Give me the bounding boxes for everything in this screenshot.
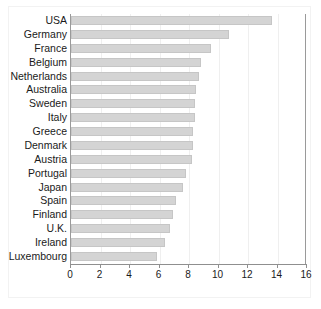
bar-row: Spain <box>0 194 321 208</box>
bar <box>71 113 195 122</box>
bar <box>71 99 195 108</box>
bar-row: USA <box>0 14 321 28</box>
x-tick-label: 4 <box>117 269 141 281</box>
category-label: Ireland <box>0 236 67 250</box>
bar-row: Belgium <box>0 56 321 70</box>
bar-row: Australia <box>0 83 321 97</box>
category-label: Sweden <box>0 97 67 111</box>
bar-row: Luxembourg <box>0 250 321 264</box>
category-label: Finland <box>0 208 67 222</box>
bar <box>71 141 193 150</box>
x-tick-label: 12 <box>235 269 259 281</box>
x-tick-label: 6 <box>147 269 171 281</box>
bar-row: Germany <box>0 28 321 42</box>
category-label: Netherlands <box>0 70 67 84</box>
category-label: U.K. <box>0 222 67 236</box>
bar-row: Japan <box>0 181 321 195</box>
x-tick-label: 14 <box>265 269 289 281</box>
bar-row: Greece <box>0 125 321 139</box>
bar <box>71 252 157 261</box>
x-tick-label: 0 <box>58 269 82 281</box>
x-tick-mark <box>218 264 219 268</box>
bar-row: France <box>0 42 321 56</box>
bar <box>71 210 173 219</box>
bar <box>71 224 170 233</box>
x-tick-label: 8 <box>176 269 200 281</box>
category-label: France <box>0 42 67 56</box>
x-tick-mark <box>129 264 130 268</box>
x-tick-mark <box>306 264 307 268</box>
x-tick-mark <box>159 264 160 268</box>
category-label: Austria <box>0 153 67 167</box>
bar-row: Portugal <box>0 167 321 181</box>
category-label: Belgium <box>0 56 67 70</box>
category-label: Germany <box>0 28 67 42</box>
bar-row: Finland <box>0 208 321 222</box>
category-label: Denmark <box>0 139 67 153</box>
x-tick-mark <box>277 264 278 268</box>
bar <box>71 58 201 67</box>
bar <box>71 169 186 178</box>
bar-row: Sweden <box>0 97 321 111</box>
bar-row: Italy <box>0 111 321 125</box>
x-tick-mark <box>188 264 189 268</box>
bar <box>71 16 272 25</box>
category-label: Australia <box>0 83 67 97</box>
bar-row: U.K. <box>0 222 321 236</box>
x-tick-mark <box>100 264 101 268</box>
bar <box>71 238 165 247</box>
bar <box>71 127 193 136</box>
x-tick-label: 2 <box>88 269 112 281</box>
category-label: Luxembourg <box>0 250 67 264</box>
bar <box>71 44 211 53</box>
bar-row: Ireland <box>0 236 321 250</box>
category-label: Portugal <box>0 167 67 181</box>
bar <box>71 196 176 205</box>
x-tick-mark <box>70 264 71 268</box>
bar-row: Austria <box>0 153 321 167</box>
category-label: Italy <box>0 111 67 125</box>
bar <box>71 155 192 164</box>
bar-row: Denmark <box>0 139 321 153</box>
bar <box>71 72 199 81</box>
category-label: USA <box>0 14 67 28</box>
bars-container: USAGermanyFranceBelgiumNetherlandsAustra… <box>0 14 321 264</box>
bar-chart-figure: 0246810121416 USAGermanyFranceBelgiumNet… <box>0 0 321 309</box>
bar <box>71 85 196 94</box>
x-tick-label: 16 <box>294 269 318 281</box>
category-label: Greece <box>0 125 67 139</box>
category-label: Japan <box>0 181 67 195</box>
x-tick-label: 10 <box>206 269 230 281</box>
x-tick-mark <box>247 264 248 268</box>
category-label: Spain <box>0 194 67 208</box>
bar-row: Netherlands <box>0 70 321 84</box>
bar <box>71 183 183 192</box>
bar <box>71 30 229 39</box>
